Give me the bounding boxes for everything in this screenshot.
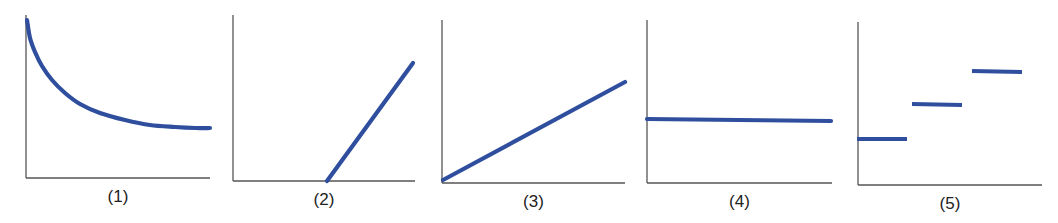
graph-panel-3: (3)	[442, 20, 625, 211]
data-line	[327, 63, 413, 181]
step-segment	[972, 71, 1022, 72]
panel-label: (3)	[523, 192, 544, 211]
panel-label: (5)	[940, 194, 961, 213]
panel-label: (2)	[314, 190, 335, 209]
graph-panel-4: (4)	[647, 20, 832, 211]
figure: (1)(2)(3)(4)(5)	[0, 0, 1058, 223]
panel-label: (4)	[729, 192, 750, 211]
data-line	[647, 119, 831, 121]
graph-panel-2: (2)	[233, 15, 415, 209]
step-segment	[912, 104, 962, 105]
data-line	[27, 20, 210, 128]
data-line	[443, 82, 625, 180]
graph-panel-1: (1)	[26, 15, 210, 206]
panel-label: (1)	[108, 187, 129, 206]
graph-panel-5: (5)	[857, 22, 1042, 213]
